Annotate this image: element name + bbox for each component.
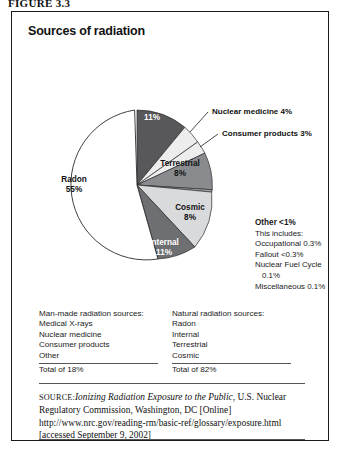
other-note-item-nuclear-fuel-cycle: Nuclear Fuel Cycle — [255, 260, 337, 271]
list-item: Other — [39, 351, 172, 361]
list-item: Radon — [172, 319, 305, 329]
natural-divider — [172, 363, 291, 364]
other-note-heading: Other <1% — [255, 218, 337, 229]
pie-label-radon-name: Radon — [61, 175, 86, 184]
source-title: Ionizing Radiation Exposure to the Publi… — [75, 392, 233, 402]
summary-lists: Man-made radiation sources: Medical X-ra… — [39, 309, 305, 375]
figure-number-label: FIGURE 3.3 — [8, 0, 70, 9]
leader-line-nuclear-medicine — [190, 112, 208, 132]
man-made-divider — [39, 363, 158, 364]
pie-label-cosmic-name: Cosmic — [175, 203, 205, 212]
other-note-item-fallout: Fallout <0.3% — [255, 250, 337, 261]
pie-label-internal-name: Internal — [149, 238, 179, 247]
list-item: Medical X-rays — [39, 319, 172, 329]
pie-label-medical-xrays-line2: X-rays — [139, 103, 164, 112]
pie-label-internal-value: 11% — [156, 248, 173, 257]
pie-label-consumer-products: Consumer products 3% — [222, 129, 312, 138]
summary-column-man-made: Man-made radiation sources: Medical X-ra… — [39, 309, 172, 375]
summary-column-natural: Natural radiation sources: Radon Interna… — [172, 309, 305, 375]
list-item: Consumer products — [39, 340, 172, 350]
man-made-heading: Man-made radiation sources: — [39, 309, 172, 319]
list-item: Nuclear medicine — [39, 330, 172, 340]
leader-line-consumer-products — [200, 134, 218, 147]
other-note-item-occupational: Occupational 0.3% — [255, 239, 337, 250]
pie-label-radon-value: 55% — [66, 185, 83, 194]
other-note-intro: This includes: — [255, 229, 337, 240]
list-item: Cosmic — [172, 351, 305, 361]
other-note-item-miscellaneous: Miscellaneous 0.1% — [255, 282, 337, 293]
pie-label-terrestrial-value: 8% — [174, 169, 187, 178]
man-made-list: Medical X-rays Nuclear medicine Consumer… — [39, 319, 172, 361]
list-item: Internal — [172, 330, 305, 340]
source-url[interactable]: http://www.nrc.gov/reading-rm/basic-ref/… — [39, 417, 311, 429]
source-divider-top — [39, 383, 305, 384]
list-item: Terrestrial — [172, 340, 305, 350]
chart-title: Sources of radiation — [28, 24, 145, 38]
other-note-item-nuclear-fuel-cycle-value: 0.1% — [255, 271, 337, 282]
pie-label-nuclear-medicine: Nuclear medicine 4% — [212, 107, 292, 116]
natural-list: Radon Internal Terrestrial Cosmic — [172, 319, 305, 361]
pie-label-cosmic-value: 8% — [184, 213, 197, 222]
source-divider-bottom — [39, 439, 305, 440]
source-citation: SOURCE:Ionizing Radiation Exposure to th… — [39, 391, 311, 442]
source-keyword: SOURCE: — [39, 393, 75, 402]
natural-heading: Natural radiation sources: — [172, 309, 305, 319]
figure-frame: Sources of radiation Medica — [11, 11, 329, 441]
other-category-note: Other <1% This includes: Occupational 0.… — [255, 218, 337, 292]
natural-total: Total of 82% — [172, 365, 305, 375]
pie-label-terrestrial-name: Terrestrial — [160, 159, 199, 168]
pie-label-medical-xrays-line1: Medical — [137, 93, 167, 102]
pie-label-medical-xrays-value: 11% — [144, 113, 161, 122]
man-made-total: Total of 18% — [39, 365, 172, 375]
